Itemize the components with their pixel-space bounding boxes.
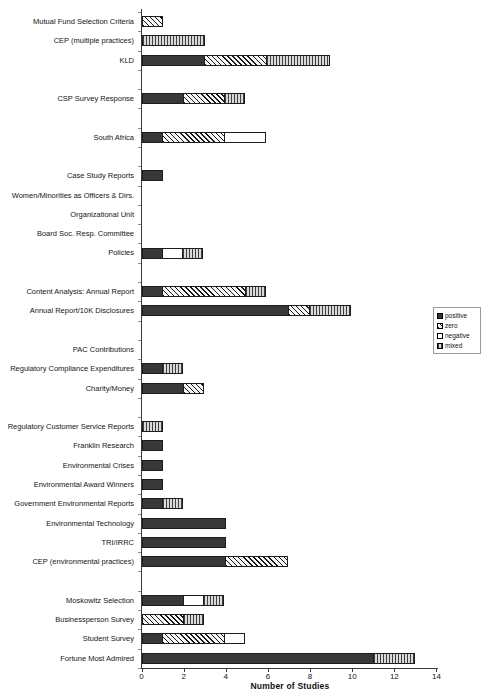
bar-stack [142, 35, 205, 46]
bar-stack [142, 440, 163, 451]
category-label: Regulatory Compliance Expenditures [0, 359, 138, 378]
bar-segment-zero [183, 383, 204, 394]
y-tick [138, 436, 141, 437]
y-tick [138, 629, 141, 630]
y-tick [138, 12, 141, 13]
bar-segment-positive [142, 653, 374, 664]
category-label: Environmental Crises [0, 456, 138, 475]
row-spacer [0, 108, 484, 127]
category-label: KLD [0, 51, 138, 70]
legend-label: zero [445, 322, 458, 329]
legend: positivezeronegativemixed [433, 307, 481, 354]
y-tick [138, 70, 141, 71]
bar-segment-zero [183, 93, 225, 104]
bar-stack [142, 518, 226, 529]
chart-row: Franklin Research [0, 436, 484, 455]
bar-stack [142, 479, 163, 490]
bar-segment-negative [224, 633, 245, 644]
bar-segment-negative [183, 595, 204, 606]
category-label: Environmental Technology [0, 514, 138, 533]
y-tick [138, 475, 141, 476]
bar-stack [142, 55, 330, 66]
y-tick [138, 591, 141, 592]
bar-stack [142, 286, 266, 297]
bar-segment-mixed [162, 363, 183, 374]
x-tick-label: 6 [266, 672, 270, 681]
category-label: Charity/Money [0, 379, 138, 398]
chart-row: CSP Survey Response [0, 89, 484, 108]
y-tick [138, 301, 141, 302]
legend-label: positive [445, 312, 467, 319]
bar-stack [142, 383, 204, 394]
bar-segment-positive [142, 537, 226, 548]
bar-segment-mixed [373, 653, 415, 664]
row-spacer [0, 321, 484, 340]
legend-label: negative [445, 332, 470, 339]
category-label: CSP Survey Response [0, 89, 138, 108]
chart-row: Charity/Money [0, 379, 484, 398]
bar-stack [142, 421, 163, 432]
chart-row: Mutual Fund Selection Criteria [0, 12, 484, 31]
chart-row: Fortune Most Admired [0, 649, 484, 668]
y-tick [138, 166, 141, 167]
category-label: CEP (environmental practices) [0, 552, 138, 571]
chart-row: Organizational Unit [0, 205, 484, 224]
legend-label: mixed [445, 342, 462, 349]
bar-segment-negative [224, 132, 266, 143]
y-tick [138, 321, 141, 322]
bar-segment-positive [142, 170, 163, 181]
bar-segment-mixed [245, 286, 266, 297]
category-label: Government Environmental Reports [0, 494, 138, 513]
bar-segment-positive [142, 286, 163, 297]
y-tick [138, 456, 141, 457]
y-tick [138, 128, 141, 129]
chart-row: South Africa [0, 128, 484, 147]
bar-segment-zero [204, 55, 267, 66]
bar-segment-zero [162, 132, 225, 143]
chart-row: Student Survey [0, 629, 484, 648]
bar-segment-positive [142, 556, 226, 567]
bar-stack [142, 248, 203, 259]
bar-segment-mixed [162, 498, 183, 509]
chart-row: Annual Report/10K Disclosures [0, 301, 484, 320]
row-spacer [0, 571, 484, 590]
category-label: Organizational Unit [0, 205, 138, 224]
legend-item-mixed: mixed [437, 342, 477, 349]
category-label: Franklin Research [0, 436, 138, 455]
bar-stack [142, 498, 183, 509]
y-tick [138, 186, 141, 187]
bar-segment-positive [142, 132, 163, 143]
bar-segment-mixed [309, 305, 351, 316]
category-label: Businessperson Survey [0, 610, 138, 629]
legend-swatch-positive-icon [437, 313, 443, 319]
category-label: South Africa [0, 128, 138, 147]
bar-segment-positive [142, 248, 163, 259]
y-tick [138, 205, 141, 206]
legend-item-positive: positive [437, 312, 477, 319]
bar-segment-positive [142, 633, 163, 644]
row-spacer [0, 263, 484, 282]
bar-segment-positive [142, 305, 289, 316]
category-label: CEP (multiple practices) [0, 31, 138, 50]
x-tick-label: 0 [139, 672, 143, 681]
bar-segment-positive [142, 55, 205, 66]
bar-segment-zero [162, 633, 225, 644]
chart-row: Women/Minorities as Officers & Dirs. [0, 186, 484, 205]
y-tick [138, 398, 141, 399]
x-axis-title: Number of Studies [142, 681, 438, 691]
bar-stack [142, 132, 266, 143]
row-spacer [0, 398, 484, 417]
chart-row: Content Analysis: Annual Report [0, 282, 484, 301]
y-tick [138, 147, 141, 148]
bar-segment-negative [162, 248, 183, 259]
y-tick [138, 494, 141, 495]
y-tick [138, 263, 141, 264]
bar-segment-positive [142, 363, 163, 374]
x-tick-label: 14 [432, 672, 441, 681]
bar-stack [142, 305, 351, 316]
bar-stack [142, 363, 183, 374]
bar-stack [142, 595, 224, 606]
chart-row: Environmental Technology [0, 514, 484, 533]
bar-segment-mixed [183, 614, 204, 625]
bar-segment-positive [142, 383, 184, 394]
